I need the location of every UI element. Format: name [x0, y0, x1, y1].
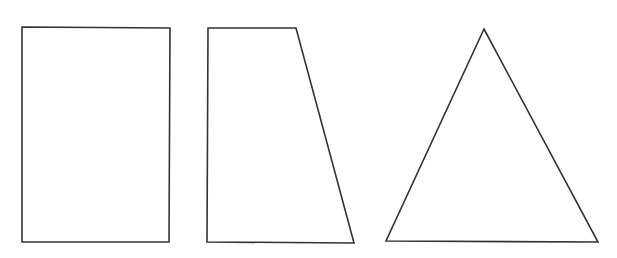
triangle-shape: [386, 29, 598, 242]
rectangle-shape: [22, 27, 170, 242]
trapezoid-shape: [207, 28, 354, 243]
diagram-canvas: [0, 0, 617, 258]
shapes-svg: [0, 0, 617, 258]
